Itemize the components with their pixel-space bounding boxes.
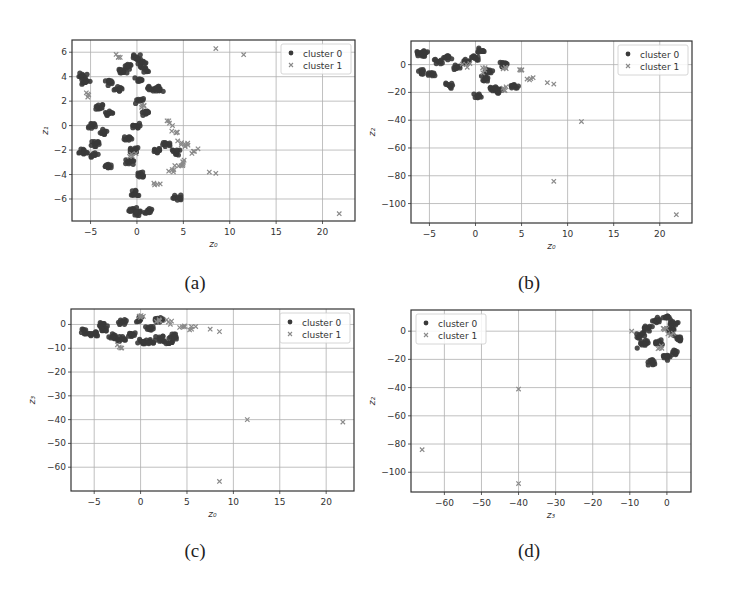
subplot-a: −505101520−6−4−20246z₀z₁cluster 0cluster… bbox=[0, 0, 365, 260]
plot-area: −60−50−40−30−20−100−100−80−60−40−200z₃z₂… bbox=[367, 310, 691, 520]
legend-marker-circle-icon bbox=[289, 51, 294, 56]
y-tick-label: −60 bbox=[47, 462, 66, 472]
y-tick-label: −60 bbox=[387, 411, 406, 421]
y-tick-label: −100 bbox=[381, 467, 406, 477]
y-tick-label: −40 bbox=[47, 415, 66, 425]
x-tick-label: −50 bbox=[472, 498, 491, 508]
caption-c: (c) bbox=[165, 540, 225, 562]
scatter-plot-a: −505101520−6−4−20246z₀z₁cluster 0cluster… bbox=[0, 0, 365, 260]
subplot-b: −505101520−100−80−60−40−200z₀z₂cluster 0… bbox=[364, 0, 729, 260]
y-tick-label: 4 bbox=[61, 72, 67, 82]
legend-label: cluster 1 bbox=[302, 330, 341, 340]
y-tick-label: −80 bbox=[387, 439, 406, 449]
x-axis-label: z₀ bbox=[207, 509, 217, 519]
x-tick-label: −60 bbox=[435, 498, 454, 508]
y-tick-label: 6 bbox=[61, 47, 67, 57]
y-tick-label: −50 bbox=[47, 438, 66, 448]
x-tick-label: 20 bbox=[317, 227, 329, 237]
plot-area: −505101520−100−80−60−40−200z₀z₂cluster 0… bbox=[367, 41, 692, 251]
y-tick-label: 0 bbox=[400, 326, 406, 336]
caption-d: (d) bbox=[499, 540, 559, 562]
caption-b: (b) bbox=[499, 272, 559, 294]
x-tick-label: 10 bbox=[224, 227, 236, 237]
y-axis-label: z₁ bbox=[40, 126, 50, 136]
y-tick-label: −20 bbox=[387, 354, 406, 364]
x-tick-label: 20 bbox=[654, 229, 666, 239]
legend-label: cluster 0 bbox=[640, 50, 679, 60]
x-axis-label: z₀ bbox=[208, 239, 218, 249]
x-tick-label: 5 bbox=[519, 229, 525, 239]
subplot-c: −505101520−60−50−40−30−20−100z₀z₃cluster… bbox=[0, 268, 365, 530]
x-tick-label: 20 bbox=[320, 497, 332, 507]
legend: cluster 0cluster 1 bbox=[416, 314, 486, 344]
x-axis-label: z₀ bbox=[546, 241, 556, 251]
y-axis-label: z₂ bbox=[367, 396, 377, 406]
scatter-plot-d: −60−50−40−30−20−100−100−80−60−40−200z₃z₂… bbox=[364, 268, 729, 530]
y-tick-label: −100 bbox=[381, 199, 406, 209]
y-tick-label: −40 bbox=[387, 383, 406, 393]
x-tick-label: −5 bbox=[423, 229, 436, 239]
x-axis-label: z₃ bbox=[546, 510, 556, 520]
legend-label: cluster 1 bbox=[303, 61, 342, 71]
x-tick-label: 5 bbox=[184, 497, 190, 507]
x-tick-label: 15 bbox=[608, 229, 619, 239]
x-tick-label: −5 bbox=[84, 227, 97, 237]
legend-label: cluster 1 bbox=[640, 62, 679, 72]
legend-marker-circle-icon bbox=[288, 320, 293, 325]
legend-label: cluster 0 bbox=[438, 319, 477, 329]
y-tick-label: −20 bbox=[47, 367, 66, 377]
plot-area: −505101520−6−4−20246z₀z₁cluster 0cluster… bbox=[40, 40, 355, 249]
scatter-plot-b: −505101520−100−80−60−40−200z₀z₂cluster 0… bbox=[364, 0, 729, 260]
y-tick-label: −30 bbox=[47, 391, 66, 401]
legend-label: cluster 0 bbox=[303, 49, 342, 59]
x-tick-label: 10 bbox=[562, 229, 574, 239]
y-tick-label: −40 bbox=[387, 115, 406, 125]
y-tick-label: −10 bbox=[47, 343, 66, 353]
x-tick-label: 5 bbox=[180, 227, 186, 237]
legend-marker-circle-icon bbox=[424, 321, 429, 326]
subplot-d: −60−50−40−30−20−100−100−80−60−40−200z₃z₂… bbox=[364, 268, 729, 530]
legend: cluster 0cluster 1 bbox=[618, 45, 688, 75]
x-tick-label: 0 bbox=[134, 227, 140, 237]
y-tick-label: −2 bbox=[54, 145, 67, 155]
x-tick-label: −20 bbox=[583, 498, 602, 508]
legend: cluster 0cluster 1 bbox=[281, 44, 351, 74]
y-tick-label: −80 bbox=[387, 171, 406, 181]
x-tick-label: 10 bbox=[228, 497, 240, 507]
y-tick-label: −4 bbox=[54, 170, 68, 180]
x-tick-label: −30 bbox=[546, 498, 565, 508]
y-tick-label: −20 bbox=[387, 87, 406, 97]
x-tick-label: −10 bbox=[620, 498, 639, 508]
x-tick-label: −40 bbox=[509, 498, 528, 508]
x-tick-label: 15 bbox=[270, 227, 281, 237]
y-tick-label: 0 bbox=[60, 319, 66, 329]
legend-label: cluster 1 bbox=[438, 331, 477, 341]
y-tick-label: 0 bbox=[400, 60, 406, 70]
x-tick-label: −5 bbox=[88, 497, 101, 507]
y-tick-label: 0 bbox=[61, 121, 67, 131]
y-tick-label: −60 bbox=[387, 143, 406, 153]
scatter-plot-c: −505101520−60−50−40−30−20−100z₀z₃cluster… bbox=[0, 268, 365, 530]
y-tick-label: 2 bbox=[61, 96, 67, 106]
y-axis-label: z₃ bbox=[27, 395, 37, 405]
y-tick-label: −6 bbox=[54, 194, 68, 204]
x-tick-label: 0 bbox=[138, 497, 144, 507]
x-tick-label: 15 bbox=[274, 497, 285, 507]
x-tick-label: 0 bbox=[664, 498, 670, 508]
caption-a: (a) bbox=[165, 272, 225, 294]
y-axis-label: z₂ bbox=[367, 127, 377, 137]
legend-marker-circle-icon bbox=[626, 52, 631, 57]
x-tick-label: 0 bbox=[473, 229, 479, 239]
legend: cluster 0cluster 1 bbox=[280, 313, 350, 343]
legend-label: cluster 0 bbox=[302, 318, 341, 328]
plot-area: −505101520−60−50−40−30−20−100z₀z₃cluster… bbox=[27, 309, 354, 519]
